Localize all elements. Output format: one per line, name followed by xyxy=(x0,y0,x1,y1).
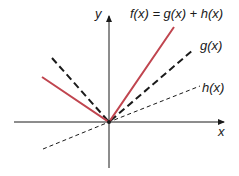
h-line xyxy=(43,86,200,149)
x-axis-label: x xyxy=(218,124,225,139)
g-label: g(x) xyxy=(200,38,222,53)
y-axis-label: y xyxy=(95,6,102,21)
f-line xyxy=(42,27,174,122)
origin-point xyxy=(107,120,111,124)
h-label: h(x) xyxy=(202,80,224,95)
f-equation-label: f(x) = g(x) + h(x) xyxy=(130,6,223,21)
g-line xyxy=(52,50,193,122)
